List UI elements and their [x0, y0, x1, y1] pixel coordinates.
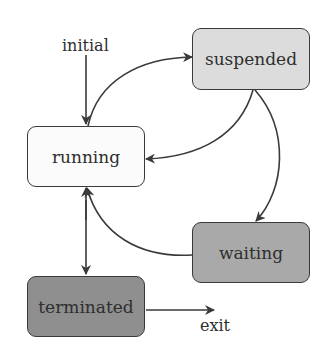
exit-label: exit — [200, 316, 230, 335]
state-running-label: running — [52, 147, 120, 167]
edge-waiting-running — [87, 188, 192, 255]
state-terminated-label: terminated — [38, 297, 133, 317]
state-suspended[interactable]: suspended — [192, 28, 310, 90]
state-suspended-label: suspended — [205, 49, 297, 69]
edge-suspended-running — [146, 90, 253, 159]
edge-running-suspended — [88, 57, 192, 126]
state-waiting[interactable]: waiting — [192, 222, 310, 283]
state-waiting-label: waiting — [219, 243, 283, 263]
state-running[interactable]: running — [27, 126, 145, 187]
state-terminated[interactable]: terminated — [27, 276, 145, 337]
initial-label: initial — [62, 36, 109, 55]
edge-suspended-waiting — [255, 90, 280, 221]
